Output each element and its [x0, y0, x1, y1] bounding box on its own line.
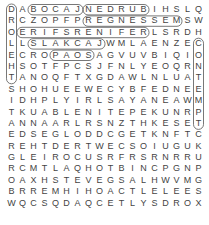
grid-letter[interactable]: L	[94, 95, 105, 106]
grid-letter[interactable]: T	[127, 118, 138, 129]
grid-letter[interactable]: W	[6, 198, 17, 209]
grid-letter[interactable]: S	[182, 15, 193, 26]
grid-letter[interactable]: R	[6, 163, 17, 174]
grid-letter[interactable]: H	[28, 141, 39, 152]
grid-letter[interactable]: T	[6, 72, 17, 83]
grid-letter[interactable]: T	[39, 141, 50, 152]
grid-letter[interactable]: E	[28, 152, 39, 163]
grid-letter[interactable]: Y	[61, 95, 72, 106]
grid-letter[interactable]: O	[39, 50, 50, 61]
grid-letter[interactable]: Q	[83, 198, 94, 209]
grid-letter[interactable]: V	[83, 175, 94, 186]
grid-letter[interactable]: H	[193, 27, 204, 38]
grid-letter[interactable]: O	[6, 175, 17, 186]
grid-letter[interactable]: Z	[116, 118, 127, 129]
grid-letter[interactable]: P	[39, 95, 50, 106]
grid-letter[interactable]: O	[182, 198, 193, 209]
grid-letter[interactable]: S	[116, 175, 127, 186]
grid-letter[interactable]: Q	[50, 198, 61, 209]
grid-letter[interactable]: S	[83, 50, 94, 61]
grid-letter[interactable]: K	[193, 141, 204, 152]
grid-letter[interactable]: E	[105, 141, 116, 152]
grid-letter[interactable]: F	[50, 61, 61, 72]
grid-letter[interactable]: Z	[28, 15, 39, 26]
grid-letter[interactable]: C	[17, 50, 28, 61]
grid-letter[interactable]: E	[6, 50, 17, 61]
grid-letter[interactable]: N	[160, 38, 171, 49]
grid-letter[interactable]: O	[72, 129, 83, 140]
grid-letter[interactable]: L	[61, 107, 72, 118]
grid-letter[interactable]: L	[39, 38, 50, 49]
grid-letter[interactable]: M	[193, 95, 204, 106]
grid-letter[interactable]: E	[182, 118, 193, 129]
grid-letter[interactable]: W	[160, 175, 171, 186]
grid-letter[interactable]: N	[83, 107, 94, 118]
grid-letter[interactable]: N	[28, 72, 39, 83]
grid-letter[interactable]: E	[61, 141, 72, 152]
grid-letter[interactable]: U	[160, 141, 171, 152]
grid-letter[interactable]: L	[61, 129, 72, 140]
grid-letter[interactable]: E	[39, 186, 50, 197]
grid-letter[interactable]: N	[160, 129, 171, 140]
grid-letter[interactable]: P	[193, 107, 204, 118]
grid-letter[interactable]: S	[61, 27, 72, 38]
grid-letter[interactable]: M	[171, 15, 182, 26]
grid-letter[interactable]: R	[6, 15, 17, 26]
grid-letter[interactable]: E	[127, 27, 138, 38]
grid-letter[interactable]: T	[105, 107, 116, 118]
grid-letter[interactable]: L	[160, 186, 171, 197]
grid-letter[interactable]: X	[83, 72, 94, 83]
grid-letter[interactable]: L	[127, 38, 138, 49]
grid-letter[interactable]: P	[160, 163, 171, 174]
grid-letter[interactable]: H	[39, 84, 50, 95]
grid-letter[interactable]: O	[94, 186, 105, 197]
grid-letter[interactable]: O	[160, 61, 171, 72]
grid-letter[interactable]: N	[94, 27, 105, 38]
grid-letter[interactable]: K	[149, 129, 160, 140]
grid-letter[interactable]: O	[61, 152, 72, 163]
grid-letter[interactable]: A	[182, 72, 193, 83]
grid-letter[interactable]: N	[149, 95, 160, 106]
grid-letter[interactable]: U	[171, 72, 182, 83]
grid-letter[interactable]: E	[6, 129, 17, 140]
grid-letter[interactable]: U	[127, 50, 138, 61]
grid-letter[interactable]: C	[17, 163, 28, 174]
grid-letter[interactable]: R	[182, 152, 193, 163]
grid-letter[interactable]: K	[61, 38, 72, 49]
grid-letter[interactable]: R	[61, 118, 72, 129]
grid-letter[interactable]: E	[127, 15, 138, 26]
grid-letter[interactable]: H	[138, 118, 149, 129]
grid-letter[interactable]: S	[94, 118, 105, 129]
grid-letter[interactable]: C	[105, 129, 116, 140]
grid-letter[interactable]: N	[193, 61, 204, 72]
grid-letter[interactable]: R	[72, 27, 83, 38]
grid-letter[interactable]: G	[116, 129, 127, 140]
grid-letter[interactable]: H	[39, 175, 50, 186]
grid-letter[interactable]: B	[149, 50, 160, 61]
grid-letter[interactable]: W	[94, 141, 105, 152]
grid-letter[interactable]: L	[50, 163, 61, 174]
grid-letter[interactable]: V	[171, 175, 182, 186]
grid-letter[interactable]: K	[17, 107, 28, 118]
grid-letter[interactable]: R	[72, 141, 83, 152]
grid-letter[interactable]: Z	[171, 38, 182, 49]
grid-letter[interactable]: T	[6, 107, 17, 118]
grid-letter[interactable]: E	[105, 198, 116, 209]
grid-letter[interactable]: E	[61, 84, 72, 95]
grid-letter[interactable]: S	[171, 118, 182, 129]
grid-letter[interactable]: T	[39, 163, 50, 174]
grid-letter[interactable]: G	[94, 72, 105, 83]
grid-letter[interactable]: Q	[17, 198, 28, 209]
grid-letter[interactable]: A	[50, 38, 61, 49]
grid-letter[interactable]: L	[182, 4, 193, 15]
grid-letter[interactable]: T	[138, 129, 149, 140]
grid-letter[interactable]: I	[160, 50, 171, 61]
grid-letter[interactable]: E	[39, 129, 50, 140]
grid-letter[interactable]: O	[39, 15, 50, 26]
grid-letter[interactable]: D	[160, 198, 171, 209]
grid-letter[interactable]: T	[127, 186, 138, 197]
grid-letter[interactable]: R	[28, 50, 39, 61]
grid-letter[interactable]: E	[149, 84, 160, 95]
grid-letter[interactable]: P	[50, 15, 61, 26]
grid-letter[interactable]: Y	[116, 84, 127, 95]
